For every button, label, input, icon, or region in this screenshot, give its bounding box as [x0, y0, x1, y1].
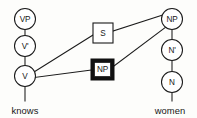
np-box-label: NP [97, 65, 109, 74]
right-tree-nodes: NP N' N [162, 9, 183, 93]
node-vbar-label: V' [22, 42, 29, 51]
node-vp[interactable]: VP [15, 9, 36, 30]
s-box[interactable]: S [93, 23, 113, 43]
diagram-canvas: VP V' V S NP [0, 0, 197, 118]
node-v[interactable]: V [15, 66, 36, 87]
edge-v-s-box [34, 35, 93, 72]
node-vbar[interactable]: V' [15, 36, 36, 57]
node-vp-label: VP [20, 15, 31, 24]
terminal-labels: knows women [11, 105, 185, 116]
node-nbar-label: N' [168, 46, 176, 55]
edge-np-box-np-right [114, 27, 166, 66]
node-np-right[interactable]: NP [162, 9, 183, 30]
node-n-label: N [169, 78, 175, 87]
center-boxes: S NP [91, 23, 114, 80]
s-box-label: S [100, 29, 106, 38]
node-n[interactable]: N [162, 72, 183, 93]
terminal-women-label: women [154, 105, 186, 116]
syntax-tree-diagram: VP V' V S NP [0, 0, 197, 118]
node-nbar[interactable]: N' [162, 40, 183, 61]
node-np-right-label: NP [166, 15, 178, 24]
np-box[interactable]: NP [91, 59, 114, 80]
edge-s-box-np-right [113, 15, 163, 31]
node-v-label: V [22, 72, 28, 81]
terminal-knows-label: knows [11, 105, 38, 116]
left-tree-nodes: VP V' V [15, 9, 36, 87]
edge-v-np-box [35, 70, 92, 78]
